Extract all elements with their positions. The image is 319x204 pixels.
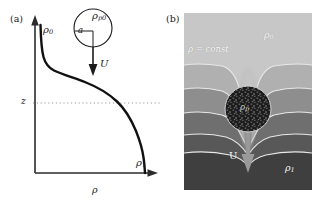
density-bottom-label: ρ1 xyxy=(136,158,146,169)
sphere-density-label: ρp0 xyxy=(92,11,106,22)
velocity-label-a: U xyxy=(100,59,108,69)
particle-density-label: ρp xyxy=(240,103,249,113)
isopycnal-label: ρ = const xyxy=(188,45,229,54)
velocity-arrow-head xyxy=(89,64,98,76)
x-axis xyxy=(35,169,158,177)
panel-b: ρ0 ρ = const ρp U ρ1 xyxy=(184,13,312,190)
radius-label: a xyxy=(78,26,83,35)
figure-root: (a) ρ0 ρ1 z ρ xyxy=(0,0,319,204)
velocity-label-b: U xyxy=(229,151,237,161)
panel-b-top-density-label: ρ0 xyxy=(264,30,274,41)
panel-b-tag: (b) xyxy=(166,14,180,24)
y-axis xyxy=(31,15,39,173)
density-top-label: ρ0 xyxy=(43,25,53,36)
panel-a: (a) ρ0 ρ1 z ρ xyxy=(0,0,162,204)
panel-b-bottom-density-label: ρ1 xyxy=(285,163,295,174)
x-axis-label: ρ xyxy=(92,185,98,195)
z-axis-tick-label: z xyxy=(21,97,26,106)
